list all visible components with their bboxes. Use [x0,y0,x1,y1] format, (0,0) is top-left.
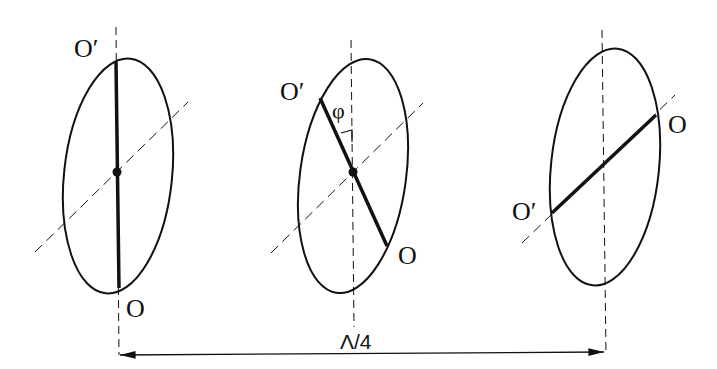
diagonal-reference-line [271,103,423,253]
label-o: O [668,110,687,139]
angle-marker [341,130,352,142]
dimension-label: Λ/4 [340,330,372,353]
vertical-reference-line [351,40,354,327]
center-dot [113,168,122,177]
label-phi: φ [332,98,345,123]
label-o-prime: O′ [74,34,98,63]
panel-middle: O′ φ O [271,40,423,327]
panel-left: O′ O [35,27,188,355]
label-o-prime: O′ [512,197,536,226]
center-dot [349,168,358,177]
dimension-quarter-wavelength: Λ/4 [120,330,604,355]
panel-right: O O′ [512,30,687,355]
label-o: O [126,294,145,323]
label-o: O [398,241,417,270]
diagonal-reference-line [35,102,188,252]
vertical-reference-line [602,30,606,355]
axis-segment [552,115,656,213]
label-o-prime: O′ [280,77,304,106]
diagram-canvas: O′ O O′ φ O O O′ Λ/4 [0,0,717,369]
